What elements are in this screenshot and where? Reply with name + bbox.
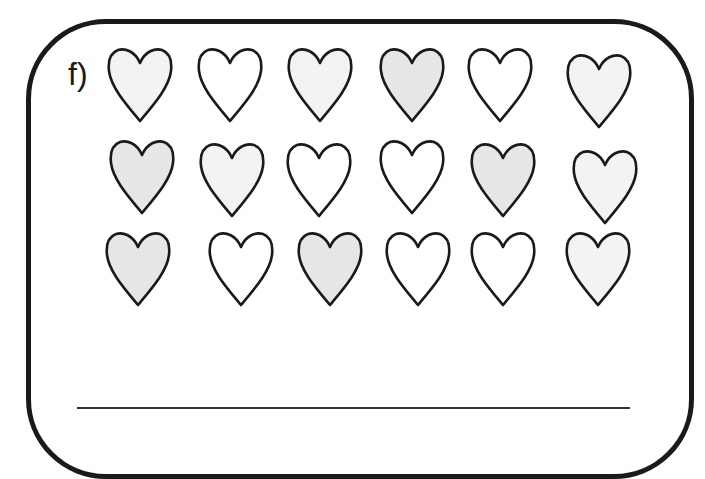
heart-icon	[470, 140, 536, 220]
heart-icon	[297, 229, 363, 309]
heart-icon	[197, 45, 263, 125]
heart-icon	[379, 137, 445, 217]
heart-icon	[107, 45, 173, 125]
exercise-label: f)	[68, 58, 88, 90]
heart-icon	[287, 45, 353, 125]
heart-icon	[467, 45, 533, 125]
answer-line[interactable]	[77, 407, 630, 409]
heart-icon	[470, 229, 536, 309]
heart-icon	[565, 229, 631, 309]
heart-icon	[572, 147, 638, 227]
heart-icon	[105, 229, 171, 309]
heart-icon	[379, 45, 445, 125]
heart-icon	[109, 137, 175, 217]
heart-icon	[208, 229, 274, 309]
heart-icon	[286, 140, 352, 220]
heart-icon	[199, 140, 265, 220]
heart-icon	[566, 51, 632, 131]
heart-icon	[385, 229, 451, 309]
